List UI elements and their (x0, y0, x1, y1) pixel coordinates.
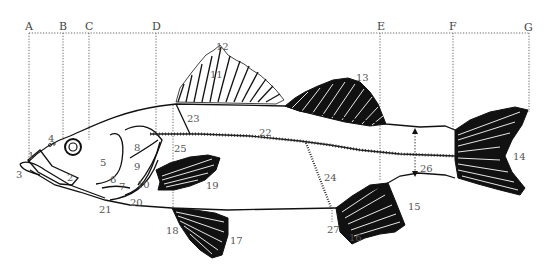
label-22: 22 (259, 127, 272, 138)
reference-letters: A B C D E F G (24, 20, 533, 34)
label-2: 2 (67, 172, 73, 183)
soft-dorsal-fin (285, 78, 386, 126)
label-17: 17 (230, 235, 243, 246)
lateral-line (150, 134, 455, 156)
label-11: 11 (210, 69, 223, 80)
pelvic-fin (172, 208, 228, 258)
label-14: 14 (513, 151, 526, 162)
label-12: 12 (216, 41, 229, 52)
label-8: 8 (134, 142, 140, 153)
label-6: 6 (110, 174, 116, 185)
label-10: 10 (137, 179, 150, 190)
ref-label-b: B (59, 20, 67, 33)
ref-label-a: A (24, 20, 34, 33)
label-26: 26 (420, 163, 433, 174)
label-4: 4 (48, 133, 54, 144)
ref-label-f: F (449, 20, 457, 33)
label-3: 3 (16, 169, 22, 180)
ref-label-g: G (524, 21, 533, 34)
label-1: 1 (28, 150, 34, 161)
ref-label-c: C (85, 20, 93, 33)
ref-label-e: E (377, 20, 385, 33)
label-20: 20 (130, 197, 143, 208)
label-5: 5 (100, 157, 106, 168)
ref-label-d: D (152, 20, 161, 33)
label-16: 16 (349, 232, 362, 243)
label-19: 19 (206, 180, 219, 191)
label-9: 9 (134, 161, 140, 172)
label-15: 15 (408, 201, 421, 212)
label-21: 21 (99, 204, 112, 215)
fish-anatomy-diagram: A B C D E F G (0, 0, 550, 275)
label-25: 25 (174, 143, 187, 154)
spiny-dorsal-fin (176, 45, 284, 104)
label-13: 13 (356, 72, 369, 83)
label-23: 23 (187, 113, 200, 124)
label-7: 7 (119, 181, 125, 192)
part-labels: 1 2 3 4 5 6 7 8 9 10 11 12 13 14 15 16 1… (16, 41, 526, 246)
label-24: 24 (324, 172, 337, 183)
label-27: 27 (327, 224, 340, 235)
label-18: 18 (166, 225, 179, 236)
